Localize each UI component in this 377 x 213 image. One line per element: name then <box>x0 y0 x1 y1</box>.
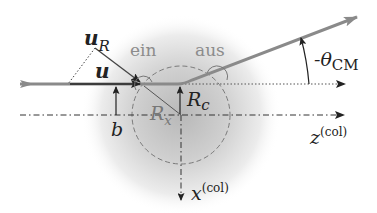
label-u: u <box>95 59 110 83</box>
label-z-col: z(col) <box>309 125 347 148</box>
theta-angle-arc <box>301 38 309 84</box>
label-ein: ein <box>130 40 156 60</box>
label-b: b <box>111 118 123 140</box>
label-aus: aus <box>195 40 225 60</box>
label-theta-cm: -θCM <box>314 48 359 74</box>
label-u-r: uR <box>84 26 110 55</box>
scattering-diagram: uR u ein aus -θCM b Rx Rc z(col) x(col) <box>0 0 377 213</box>
